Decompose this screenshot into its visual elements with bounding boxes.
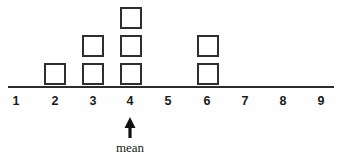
- tick-label-1: 1: [6, 94, 26, 108]
- tick-label-7: 7: [235, 94, 255, 108]
- dot-plot-figure: 1 2 3 4 5 6 7 8 9 mean: [0, 0, 343, 163]
- tick-label-5: 5: [158, 94, 178, 108]
- dot-square: [120, 63, 142, 85]
- dot-square: [120, 35, 142, 57]
- mean-label: mean: [100, 140, 160, 155]
- tick-label-2: 2: [45, 94, 65, 108]
- number-line-axis: [8, 86, 334, 88]
- tick-label-4: 4: [120, 94, 140, 108]
- tick-label-9: 9: [311, 94, 331, 108]
- dot-square: [44, 63, 66, 85]
- tick-label-8: 8: [273, 94, 293, 108]
- tick-label-6: 6: [197, 94, 217, 108]
- dot-square: [82, 63, 104, 85]
- dot-square: [82, 35, 104, 57]
- dot-square: [120, 7, 142, 29]
- arrow-up-icon: [119, 117, 141, 138]
- dot-square: [197, 35, 219, 57]
- dot-square: [197, 63, 219, 85]
- tick-label-3: 3: [83, 94, 103, 108]
